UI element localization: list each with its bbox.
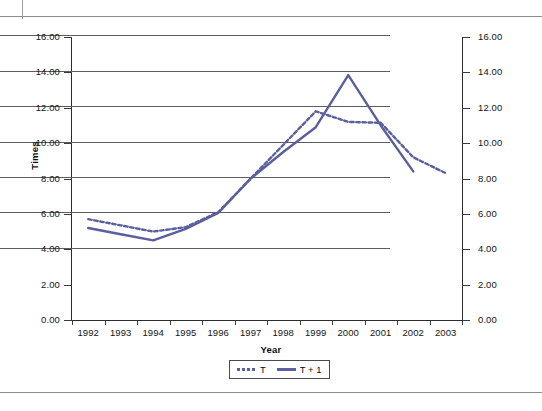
series-line-t1	[88, 75, 413, 240]
y-axis-title: Times	[29, 116, 40, 196]
x-axis-title: Year	[0, 344, 542, 355]
legend-label-t-plus-1: T + 1	[300, 364, 322, 375]
legend-swatch-dotted-icon	[237, 368, 256, 371]
legend-item-t[interactable]: T	[237, 364, 266, 375]
legend-swatch-solid-icon	[277, 368, 296, 371]
line-chart: 0.002.004.006.008.0010.0012.0014.0016.00…	[0, 0, 542, 411]
legend-item-t-plus-1[interactable]: T + 1	[277, 364, 322, 375]
legend-label-t: T	[260, 364, 266, 375]
series-line-t	[88, 111, 446, 231]
chart-legend: T T + 1	[229, 360, 330, 379]
